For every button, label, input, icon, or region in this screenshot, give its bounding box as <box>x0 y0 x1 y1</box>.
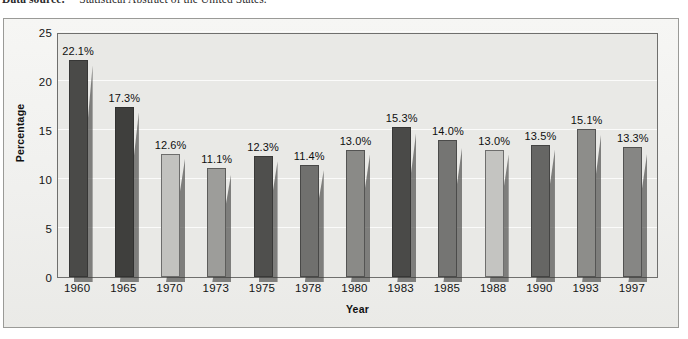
bar: 13.0% <box>485 150 504 277</box>
bar-value-label: 13.0% <box>478 135 510 147</box>
bar: 17.3% <box>115 107 134 277</box>
bar-value-label: 12.3% <box>247 141 279 153</box>
bar-body <box>254 156 273 277</box>
bar-body <box>161 154 180 277</box>
x-axis-tick: 1980 <box>341 282 367 294</box>
y-axis-tick: 25 <box>16 27 52 39</box>
bar-value-label: 22.1% <box>62 45 94 57</box>
bar-body <box>115 107 134 277</box>
bar-body <box>531 145 550 277</box>
chart-figure-frame: Percentage 0510152025 22.1%17.3%12.6%11.… <box>3 18 679 328</box>
bar-value-label: 11.4% <box>294 150 325 162</box>
x-axis-tick: 1985 <box>434 282 460 294</box>
data-source-caption: Data source:Statistical Abstract of the … <box>2 0 267 5</box>
x-axis-tick-labels: 1960196519701973197519781980198319851988… <box>57 282 658 300</box>
x-axis-tick: 1993 <box>572 282 598 294</box>
bar-value-label: 15.3% <box>386 112 418 124</box>
y-axis-tick: 15 <box>16 125 52 137</box>
plot-area: 22.1%17.3%12.6%11.1%12.3%11.4%13.0%15.3%… <box>57 33 658 278</box>
bar-body <box>300 165 319 277</box>
bar: 11.4% <box>300 165 319 277</box>
y-axis-tick: 10 <box>16 174 52 186</box>
x-axis-tick: 1983 <box>388 282 414 294</box>
bar-value-label: 13.0% <box>340 135 372 147</box>
bar-body <box>69 60 88 277</box>
bar-body <box>438 140 457 277</box>
x-axis-tick: 1997 <box>619 282 645 294</box>
bar-body <box>623 147 642 277</box>
y-axis-tick: 0 <box>16 272 52 284</box>
bar-body <box>207 168 226 277</box>
x-axis-title: Year <box>57 303 658 315</box>
y-axis-tick-labels: 0510152025 <box>16 33 52 278</box>
x-axis-tick: 1990 <box>526 282 552 294</box>
bar: 15.1% <box>577 129 596 277</box>
x-axis-tick: 1975 <box>249 282 275 294</box>
bar: 15.3% <box>392 127 411 277</box>
bar-body <box>346 150 365 277</box>
y-axis-tick: 20 <box>16 76 52 88</box>
x-axis-tick: 1973 <box>203 282 229 294</box>
bar: 12.3% <box>254 156 273 277</box>
x-axis-tick: 1978 <box>295 282 321 294</box>
x-axis-tick: 1988 <box>480 282 506 294</box>
bar-value-label: 11.1% <box>201 153 232 165</box>
x-axis-tick: 1970 <box>156 282 182 294</box>
bar-value-label: 14.0% <box>432 125 464 137</box>
bar-body <box>485 150 504 277</box>
bar-value-label: 13.3% <box>617 132 649 144</box>
bar: 12.6% <box>161 154 180 277</box>
bar: 11.1% <box>207 168 226 277</box>
bar-body <box>577 129 596 277</box>
bar: 14.0% <box>438 140 457 277</box>
bar: 13.3% <box>623 147 642 277</box>
data-source-label: Data source: <box>2 0 65 5</box>
bar-value-label: 13.5% <box>525 130 557 142</box>
x-axis-tick: 1965 <box>110 282 136 294</box>
bar: 13.5% <box>531 145 550 277</box>
bar: 22.1% <box>69 60 88 277</box>
x-axis-tick: 1960 <box>64 282 90 294</box>
bar-value-label: 12.6% <box>155 139 187 151</box>
y-axis-tick: 5 <box>16 223 52 235</box>
bars-layer: 22.1%17.3%12.6%11.1%12.3%11.4%13.0%15.3%… <box>58 34 657 277</box>
bar-body <box>392 127 411 277</box>
bar-value-label: 17.3% <box>108 92 140 104</box>
gridline <box>58 31 657 32</box>
bar-value-label: 15.1% <box>571 114 603 126</box>
bar: 13.0% <box>346 150 365 277</box>
data-source-value: Statistical Abstract of the United State… <box>79 0 267 5</box>
